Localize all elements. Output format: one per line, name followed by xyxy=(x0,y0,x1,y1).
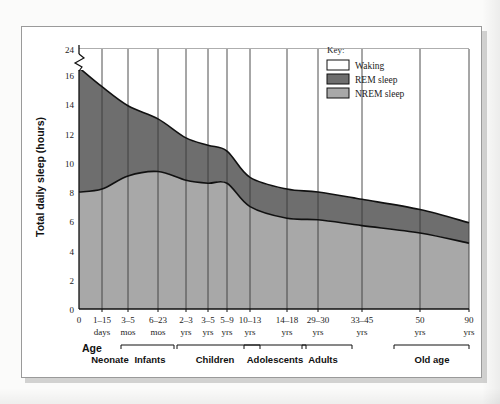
x-tick-value-8: 14–18 xyxy=(276,315,299,325)
age-group-bracket-adults xyxy=(302,345,352,349)
y-tick-24: 24 xyxy=(65,45,75,55)
x-axis-title: Age xyxy=(82,342,102,354)
x-tick-labels: 01–15days3–5mos6–23mos2–3yrs3–5yrs5–9yrs… xyxy=(77,309,475,337)
x-tick-value-4: 2–3 xyxy=(179,315,193,325)
legend-swatch-rem-sleep xyxy=(327,74,349,84)
age-group-label-old-age: Old age xyxy=(415,354,450,365)
age-group-bracket-adolescents xyxy=(244,345,306,349)
x-tick-value-12: 90 xyxy=(465,315,475,325)
x-tick-unit-6: yrs xyxy=(222,327,233,337)
chart-svg: 024681012141624 Total daily sleep (hours… xyxy=(22,27,483,379)
x-tick-value-5: 3–5 xyxy=(201,315,215,325)
scan-shade-bottom xyxy=(0,388,500,404)
y-axis-title: Total daily sleep (hours) xyxy=(34,117,46,237)
page-canvas: 024681012141624 Total daily sleep (hours… xyxy=(0,0,500,404)
age-group-label-children: Children xyxy=(196,354,235,365)
legend-title: Key: xyxy=(327,45,345,55)
y-tick-16: 16 xyxy=(65,71,75,81)
x-tick-value-9: 29–30 xyxy=(307,315,330,325)
x-tick-unit-9: yrs xyxy=(313,327,324,337)
figure-frame: 024681012141624 Total daily sleep (hours… xyxy=(21,26,482,378)
x-tick-value-11: 50 xyxy=(416,315,426,325)
x-tick-value-3: 6–23 xyxy=(149,315,168,325)
x-tick-unit-11: yrs xyxy=(415,327,426,337)
age-group-label-adults: Adults xyxy=(308,354,338,365)
legend-label-waking: Waking xyxy=(355,61,385,71)
x-tick-unit-12: yrs xyxy=(464,327,475,337)
x-tick-unit-5: yrs xyxy=(203,327,214,337)
x-tick-value-2: 3–5 xyxy=(121,315,135,325)
x-tick-value-0: 0 xyxy=(77,315,82,325)
y-tick-labels: 024681012141624 xyxy=(65,45,75,315)
x-tick-unit-4: yrs xyxy=(181,327,192,337)
age-group-bracket-infants xyxy=(121,345,174,349)
x-tick-unit-8: yrs xyxy=(282,327,293,337)
legend-label-nrem-sleep: NREM sleep xyxy=(355,89,405,99)
y-axis-break-icon xyxy=(74,54,85,71)
x-tick-value-1: 1–15 xyxy=(93,315,112,325)
x-tick-unit-3: mos xyxy=(150,327,166,337)
y-tick-12: 12 xyxy=(65,130,74,140)
age-group-brackets: NeonateInfantsChildrenAdolescentsAdultsO… xyxy=(91,345,469,365)
age-group-label-infants: Infants xyxy=(134,354,165,365)
y-tick-4: 4 xyxy=(70,247,75,257)
x-tick-unit-7: yrs xyxy=(245,327,256,337)
x-tick-unit-2: mos xyxy=(120,327,136,337)
y-tick-8: 8 xyxy=(70,188,75,198)
age-group-bracket-old-age xyxy=(394,345,469,349)
y-tick-10: 10 xyxy=(65,159,75,169)
y-tick-2: 2 xyxy=(70,276,75,286)
y-tick-0: 0 xyxy=(70,305,75,315)
scan-shade-right xyxy=(482,0,500,404)
legend-swatch-nrem-sleep xyxy=(327,88,349,98)
x-tick-unit-10: yrs xyxy=(357,327,368,337)
age-group-label-adolescents: Adolescents xyxy=(247,354,304,365)
y-tick-14: 14 xyxy=(65,100,75,110)
legend-label-rem-sleep: REM sleep xyxy=(355,75,398,85)
y-tick-6: 6 xyxy=(70,217,75,227)
x-tick-value-7: 10–13 xyxy=(239,315,262,325)
sleep-chart: 024681012141624 Total daily sleep (hours… xyxy=(22,27,483,379)
x-tick-unit-1: days xyxy=(94,327,111,337)
x-tick-value-6: 5–9 xyxy=(220,315,234,325)
legend-swatch-waking xyxy=(327,60,349,70)
age-group-bracket-children xyxy=(177,345,260,349)
x-tick-value-10: 33–45 xyxy=(351,315,374,325)
age-group-label-neonate: Neonate xyxy=(91,354,128,365)
